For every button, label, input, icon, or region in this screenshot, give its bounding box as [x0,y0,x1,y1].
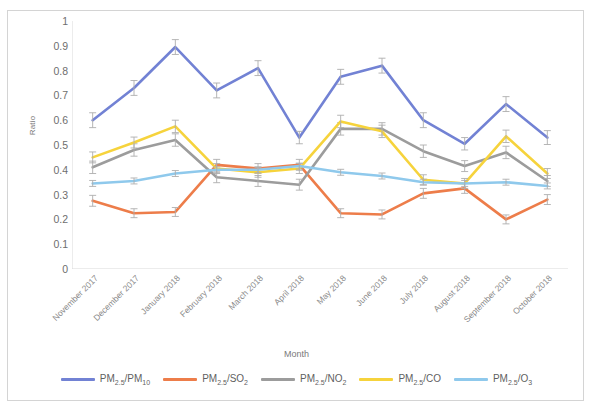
y-tick-label: 0.2 [42,213,68,225]
legend-item-pm2-5-co[interactable]: PM2.5/CO [359,373,441,386]
legend-swatch-icon [163,378,197,381]
legend-label: PM2.5/SO2 [202,373,248,386]
y-tick-label: 0 [42,263,68,275]
legend-item-pm2-5-pm10[interactable]: PM2.5/PM10 [61,373,150,386]
y-tick-label: 0.9 [42,40,68,52]
x-axis-title: Month [8,349,585,359]
y-tick-label: 0.3 [42,189,68,201]
x-axis-tick-labels: November 2017December 2017January 2018Fe… [72,273,568,345]
y-tick-label: 0.4 [42,164,68,176]
legend-swatch-icon [359,378,393,381]
y-tick-label: 0.5 [42,139,68,151]
plot-wrapper: Ratio 00.10.20.30.40.50.60.70.80.91 Nove… [8,11,585,402]
line-chart-svg [72,21,568,269]
series-pm2-5-o3 [89,163,551,189]
y-tick-label: 0.7 [42,89,68,101]
y-tick-label: 0.6 [42,114,68,126]
legend-swatch-icon [454,378,488,381]
legend-item-pm2-5-no2[interactable]: PM2.5/NO2 [261,373,346,386]
y-axis-title: Ratio [28,86,37,166]
y-tick-label: 1 [42,15,68,27]
y-tick-label: 0.1 [42,238,68,250]
plot-area [72,21,568,269]
legend-label: PM2.5/NO2 [300,373,346,386]
legend-item-pm2-5-so2[interactable]: PM2.5/SO2 [163,373,248,386]
legend-label: PM2.5/CO [398,373,441,386]
y-tick-label: 0.8 [42,65,68,77]
legend-swatch-icon [261,378,295,381]
legend-item-pm2-5-o3[interactable]: PM2.5/O3 [454,373,532,386]
legend-label: PM2.5/PM10 [100,373,150,386]
y-axis-tick-labels: 00.10.20.30.40.50.60.70.80.91 [42,21,68,269]
chart-container: Ratio 00.10.20.30.40.50.60.70.80.91 Nove… [7,10,584,401]
legend-swatch-icon [61,378,95,381]
legend-label: PM2.5/O3 [493,373,532,386]
chart-legend: PM2.5/PM10PM2.5/SO2PM2.5/NO2PM2.5/COPM2.… [8,373,585,386]
